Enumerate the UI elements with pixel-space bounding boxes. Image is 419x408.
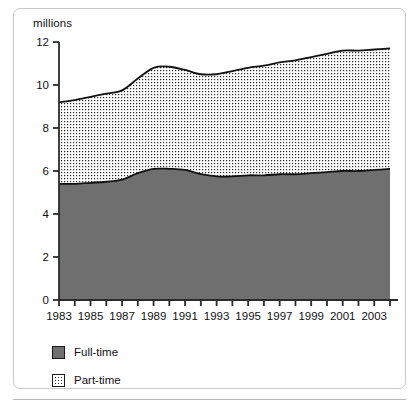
legend-item-part-time: Part-time [52,371,252,390]
x-axis-tick-label: 1999 [298,310,324,322]
y-axis-tick-label: 2 [43,251,49,263]
x-axis-tick-label: 2003 [361,310,387,322]
y-axis-tick-label: 6 [43,165,49,177]
legend-swatch-part-time-icon [52,374,65,387]
x-axis-tick-label: 1983 [46,310,72,322]
full-time-area [59,168,390,300]
y-axis-tick-label: 8 [43,122,49,134]
x-axis-tick-label: 1995 [235,310,261,322]
legend-label-part-time: Part-time [74,374,121,387]
x-axis-tick-label: 1993 [204,310,230,322]
legend-label-full-time: Full-time [74,346,118,359]
x-axis-tick-label: 1997 [267,310,293,322]
legend-item-full-time: Full-time [52,343,252,362]
y-axis-tick-label: 12 [36,36,49,48]
y-axis-tick-label: 10 [36,79,49,91]
x-axis-tick-label: 2001 [330,310,356,322]
part-time-area [59,48,390,184]
x-axis-tick-label: 1987 [109,310,135,322]
legend-swatch-full-time-icon [52,346,65,359]
chart-legend: Full-time Part-time [52,343,252,399]
y-axis-tick-label: 4 [43,208,50,220]
chart-root: 0246810121983198519871989199119931995199… [36,36,398,322]
y-axis-tick-label: 0 [43,294,49,306]
chart-figure: millions 0246810121983198519871989199119… [0,0,419,408]
x-axis-tick-label: 1989 [141,310,167,322]
x-axis-tick-label: 1985 [78,310,104,322]
x-axis-tick-label: 1991 [172,310,198,322]
